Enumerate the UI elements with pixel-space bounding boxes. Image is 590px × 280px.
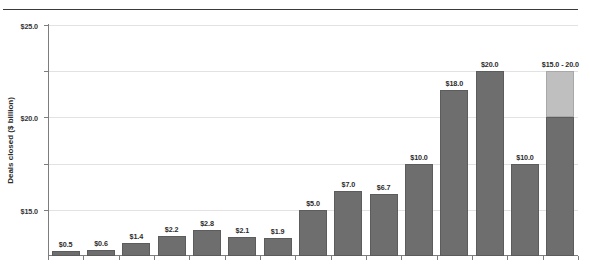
x-tick-mark (295, 256, 296, 260)
bar-slot: $15.0 - 20.0 (546, 25, 574, 256)
bar-segment-lower (476, 71, 504, 256)
bar-slot: $2.1 (228, 25, 256, 256)
bar-segment-lower (158, 236, 186, 256)
x-tick-mark (189, 256, 190, 260)
bar[interactable] (264, 238, 292, 256)
x-tick-mark (260, 256, 261, 260)
bar-segment-lower (193, 230, 221, 256)
bar-segment-lower (370, 194, 398, 256)
bar-value-label: $2.1 (236, 226, 250, 235)
bar-value-label: $2.8 (200, 219, 214, 228)
bar-value-label: $15.0 - 20.0 (542, 60, 579, 69)
bar[interactable] (299, 210, 327, 256)
bar-segment-lower (546, 117, 574, 256)
bar-value-label: $7.0 (342, 180, 356, 189)
bar[interactable] (122, 243, 150, 256)
bar[interactable] (193, 230, 221, 256)
bar-slot: $0.5 (52, 25, 80, 256)
bar-value-label: $20.0 (481, 60, 499, 69)
bar-segment-lower (511, 164, 539, 256)
bar-value-label: $6.7 (377, 183, 391, 192)
bar-value-label: $2.2 (165, 225, 179, 234)
y-tick-label: $20.0 (21, 114, 39, 123)
x-tick-mark (472, 256, 473, 260)
bar-value-label: $10.0 (516, 153, 534, 162)
bar[interactable] (511, 164, 539, 256)
bar-slot: $1.4 (122, 25, 150, 256)
plot-area: $5.0$10.0$15.0$20.0$25.0 $0.5$0.6$1.4$2.… (48, 25, 578, 256)
bar-segment-lower (405, 164, 433, 256)
bar-segment-lower (228, 237, 256, 256)
bar[interactable] (440, 90, 468, 256)
bar-segment-lower (264, 238, 292, 256)
bar-value-label: $5.0 (306, 199, 320, 208)
x-tick-mark (437, 256, 438, 260)
bar-segment-lower (334, 191, 362, 256)
chart-figure: Deals closed ($ billion) $5.0$10.0$15.0$… (0, 0, 590, 280)
bar-slot: $10.0 (405, 25, 433, 256)
y-axis-line (48, 24, 49, 256)
bar-segment-lower (299, 210, 327, 256)
bar-slot: $18.0 (440, 25, 468, 256)
header-divider-rule (3, 9, 578, 10)
bar-segment-lower (440, 90, 468, 256)
x-tick-mark (119, 256, 120, 260)
bar-value-label: $18.0 (446, 79, 464, 88)
bar[interactable] (334, 191, 362, 256)
bar-segment-lower (52, 251, 80, 256)
bar[interactable] (546, 71, 574, 256)
bar-slot: $7.0 (334, 25, 362, 256)
bar-slot: $10.0 (511, 25, 539, 256)
x-tick-mark (578, 256, 579, 260)
bar[interactable] (370, 194, 398, 256)
bar-slot: $5.0 (299, 25, 327, 256)
bar-slot: $6.7 (370, 25, 398, 256)
bar-segment-lower (87, 250, 115, 256)
x-tick-mark (543, 256, 544, 260)
bar-slot: $2.8 (193, 25, 221, 256)
x-tick-mark (507, 256, 508, 260)
bar-slot: $20.0 (476, 25, 504, 256)
bar-slot: $2.2 (158, 25, 186, 256)
bar[interactable] (52, 251, 80, 256)
x-tick-mark (48, 256, 49, 260)
bar-value-label: $10.0 (410, 153, 428, 162)
bar-segment-lower (122, 243, 150, 256)
y-tick-label: $15.0 (21, 206, 39, 215)
bar[interactable] (405, 164, 433, 256)
bar-slot: $0.6 (87, 25, 115, 256)
bar-value-label: $1.9 (271, 227, 285, 236)
bar[interactable] (87, 250, 115, 256)
bar[interactable] (476, 71, 504, 256)
bar-value-label: $1.4 (130, 232, 144, 241)
bar[interactable] (228, 237, 256, 256)
y-tick-label: $25.0 (21, 22, 39, 31)
y-axis-title: Deals closed ($ billion) (4, 25, 16, 256)
bar[interactable] (158, 236, 186, 256)
bar-segment-upper (546, 71, 574, 117)
bar-value-label: $0.6 (94, 239, 108, 248)
x-tick-mark (331, 256, 332, 260)
x-tick-mark (225, 256, 226, 260)
x-tick-mark (366, 256, 367, 260)
bar-value-label: $0.5 (59, 240, 73, 249)
x-tick-mark (401, 256, 402, 260)
bar-slot: $1.9 (264, 25, 292, 256)
x-tick-mark (154, 256, 155, 260)
x-tick-mark (83, 256, 84, 260)
